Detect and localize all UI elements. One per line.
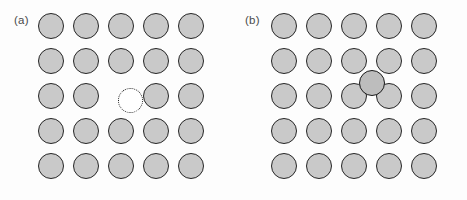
lattice-atom [411, 83, 437, 109]
lattice-atom [38, 153, 64, 179]
lattice-atom [38, 13, 64, 39]
lattice-atom [73, 118, 99, 144]
lattice-atom [411, 153, 437, 179]
lattice-atom [306, 13, 332, 39]
lattice-atom [73, 48, 99, 74]
lattice-atom [306, 83, 332, 109]
lattice-atom [271, 48, 297, 74]
vacancy-site [118, 88, 143, 113]
lattice-atom [411, 13, 437, 39]
lattice-atom [143, 118, 169, 144]
panel-a-vacancy: (a) [0, 0, 233, 200]
lattice-atom [143, 153, 169, 179]
lattice-atom [178, 13, 204, 39]
lattice-grid-a [0, 0, 233, 200]
lattice-atom [143, 83, 169, 109]
point-defect-figure: (a) (b) [0, 0, 467, 200]
lattice-atom [411, 48, 437, 74]
lattice-atom [178, 153, 204, 179]
lattice-atom [108, 118, 134, 144]
lattice-atom [178, 118, 204, 144]
lattice-atom [376, 118, 402, 144]
panel-b-interstitial: (b) [233, 0, 466, 200]
lattice-atom [306, 48, 332, 74]
lattice-atom [341, 153, 367, 179]
lattice-atom [38, 48, 64, 74]
lattice-atom [341, 13, 367, 39]
lattice-atom [271, 13, 297, 39]
lattice-atom [108, 48, 134, 74]
lattice-atom [271, 118, 297, 144]
lattice-atom [143, 13, 169, 39]
lattice-atom [108, 153, 134, 179]
lattice-atom [73, 13, 99, 39]
lattice-atom [271, 153, 297, 179]
lattice-atom [38, 83, 64, 109]
lattice-atom [38, 118, 64, 144]
lattice-atom [376, 13, 402, 39]
lattice-grid-b [233, 0, 466, 200]
lattice-atom [143, 48, 169, 74]
lattice-atom [73, 153, 99, 179]
lattice-atom [73, 83, 99, 109]
lattice-atom [306, 118, 332, 144]
lattice-atom [108, 13, 134, 39]
lattice-atom [178, 48, 204, 74]
lattice-atom [341, 48, 367, 74]
lattice-atom [376, 48, 402, 74]
lattice-atom [341, 118, 367, 144]
lattice-atom [271, 83, 297, 109]
lattice-atom [306, 153, 332, 179]
lattice-atom [178, 83, 204, 109]
lattice-atom [376, 153, 402, 179]
interstitial-atom [359, 70, 385, 96]
lattice-atom [411, 118, 437, 144]
